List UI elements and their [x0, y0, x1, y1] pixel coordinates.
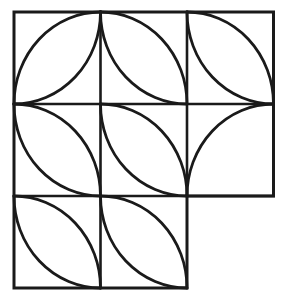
- figure-canvas: [0, 0, 286, 302]
- figure-background: [0, 0, 286, 302]
- geometric-figure-svg: [0, 0, 286, 302]
